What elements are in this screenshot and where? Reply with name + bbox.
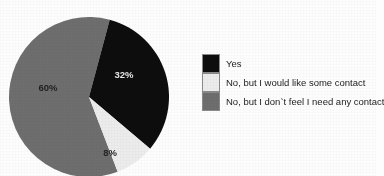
pie-label-would-like-contact: 8% (103, 147, 117, 158)
pie-chart-plot-area: 32% 60% 8% (0, 0, 190, 176)
legend-label-yes: Yes (226, 59, 242, 69)
legend-item-no-need-contact[interactable]: No, but I don`t feel I need any contact (202, 92, 376, 111)
pie-label-no-need-contact: 60% (38, 82, 58, 93)
pie-label-yes: 32% (114, 69, 134, 80)
legend-item-yes[interactable]: Yes (202, 54, 376, 73)
legend-label-would-like-contact: No, but I would like some contact (226, 78, 365, 88)
legend-item-would-like-contact[interactable]: No, but I would like some contact (202, 73, 376, 92)
legend-label-no-need-contact: No, but I don`t feel I need any contact (226, 97, 384, 107)
legend-swatch-icon-no-need-contact (202, 92, 220, 111)
legend: Yes No, but I would like some contact No… (202, 54, 376, 111)
legend-swatch-icon-would-like-contact (202, 73, 220, 92)
legend-swatch-icon-yes (202, 54, 220, 73)
pie-chart-svg: 32% 60% 8% (0, 0, 190, 176)
